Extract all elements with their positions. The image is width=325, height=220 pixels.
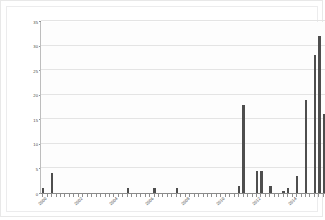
y-tick-label: 0	[16, 192, 38, 197]
bar	[256, 171, 258, 193]
x-tick-label: 2006	[140, 196, 156, 212]
bar	[314, 55, 316, 193]
y-tick-label: 5	[16, 167, 38, 172]
bar-series	[41, 22, 325, 193]
bar	[260, 171, 262, 193]
bar	[305, 100, 307, 193]
bar	[42, 188, 44, 193]
x-tick-label: 2014	[282, 196, 298, 212]
bar	[296, 176, 298, 193]
x-tick-label: 2000	[33, 196, 49, 212]
x-axis-labels: 20002002200420062008201020122014	[40, 196, 325, 220]
bar	[176, 188, 178, 193]
bar	[318, 36, 320, 193]
x-tick-label: 2012	[247, 196, 263, 212]
y-tick-label: 35	[16, 20, 38, 25]
x-tick-label: 2004	[104, 196, 120, 212]
y-tick-label: 30	[16, 44, 38, 49]
y-tick-label: 10	[16, 142, 38, 147]
bar	[238, 186, 240, 193]
bar	[127, 188, 129, 193]
y-tick-label: 25	[16, 69, 38, 74]
bar	[287, 188, 289, 193]
x-tick-label: 2002	[69, 196, 85, 212]
bar	[153, 188, 155, 193]
x-tick-label: 2010	[211, 196, 227, 212]
y-tick-label: 20	[16, 93, 38, 98]
x-tick-label: 2008	[175, 196, 191, 212]
plot-area	[40, 22, 325, 194]
bar	[242, 105, 244, 193]
y-axis-ticks: 05101520253035	[13, 22, 38, 194]
gridline	[41, 20, 325, 21]
bar	[51, 173, 53, 193]
bar	[269, 186, 271, 193]
chart-frame: Number of birds 05101520253035 200020022…	[6, 6, 318, 212]
bar	[282, 191, 284, 193]
y-tick-label: 15	[16, 118, 38, 123]
